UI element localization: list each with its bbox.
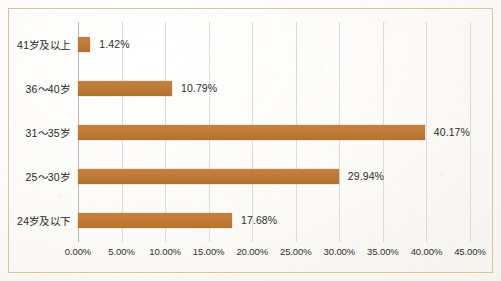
- x-axis-tick-label: 15.00%: [193, 246, 225, 257]
- bar-value-label: 29.94%: [348, 170, 384, 182]
- bar[interactable]: [78, 37, 90, 52]
- bar-series: 17.68%29.94%40.17%10.79%1.42%: [78, 22, 470, 242]
- bar[interactable]: [78, 81, 172, 96]
- x-axis-tick-label: 40.00%: [411, 246, 443, 257]
- x-axis-tick-label: 35.00%: [367, 246, 399, 257]
- x-axis-tick-label: 20.00%: [236, 246, 268, 257]
- bar-row[interactable]: 29.94%: [78, 154, 470, 198]
- bar-row[interactable]: 17.68%: [78, 198, 470, 242]
- bar-value-label: 10.79%: [181, 82, 217, 94]
- category-axis-label: 41岁及以上: [0, 22, 70, 66]
- bar[interactable]: [78, 169, 339, 184]
- bar-value-label: 1.42%: [99, 38, 129, 50]
- x-axis-tick-labels: 0.00%5.00%10.00%15.00%20.00%25.00%30.00%…: [78, 246, 470, 264]
- category-axis-label: 25～30岁: [0, 154, 70, 198]
- category-axis-label: 36～40岁: [0, 66, 70, 110]
- category-axis-label: 24岁及以下: [0, 198, 70, 242]
- x-axis-tick-label: 5.00%: [108, 246, 134, 257]
- x-axis-tick-label: 30.00%: [324, 246, 356, 257]
- chart-page: 24岁及以下25～30岁31～35岁36～40岁41岁及以上 17.68%29.…: [0, 0, 501, 281]
- x-axis-tick-label: 25.00%: [280, 246, 312, 257]
- plot-area: 17.68%29.94%40.17%10.79%1.42%: [78, 22, 470, 242]
- bar-value-label: 40.17%: [434, 126, 470, 138]
- x-axis-tick-label: 45.00%: [454, 246, 486, 257]
- x-axis-tick-label: 10.00%: [149, 246, 181, 257]
- bar-row[interactable]: 1.42%: [78, 22, 470, 66]
- gridline: [470, 22, 471, 242]
- category-axis-labels: 24岁及以下25～30岁31～35岁36～40岁41岁及以上: [0, 22, 74, 242]
- bar-row[interactable]: 40.17%: [78, 110, 470, 154]
- category-axis-label: 31～35岁: [0, 110, 70, 154]
- bar-value-label: 17.68%: [241, 214, 277, 226]
- x-axis-tick-label: 0.00%: [65, 246, 91, 257]
- bar[interactable]: [78, 213, 232, 228]
- bar-row[interactable]: 10.79%: [78, 66, 470, 110]
- bar[interactable]: [78, 125, 425, 140]
